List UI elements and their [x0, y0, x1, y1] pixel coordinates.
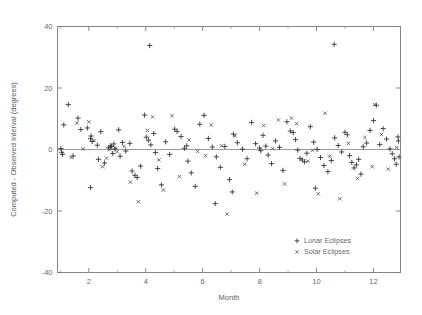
x-axis-title: Month	[219, 293, 240, 302]
y-tick-label: 0	[48, 145, 52, 154]
x-tick-label: 12	[369, 277, 377, 286]
y-tick-label: 40	[44, 22, 52, 31]
x-tick-label: 10	[312, 277, 320, 286]
y-tick-label: -20	[42, 207, 53, 216]
y-tick-label: 20	[44, 84, 52, 93]
legend-label: Lunar Eclipses	[304, 236, 352, 245]
y-tick-label: -40	[42, 268, 53, 277]
legend-label: Solar Eclipses	[304, 247, 350, 256]
x-tick-label: 4	[144, 277, 148, 286]
y-axis-title: Computed - Observed Interval (degrees)	[9, 82, 18, 217]
plot-canvas: 24681012 -40-2002040 Month Computed - Ob…	[0, 0, 422, 315]
x-tick-label: 8	[258, 277, 262, 286]
x-tick-label: 2	[87, 277, 91, 286]
x-tick-label: 6	[201, 277, 205, 286]
scatter-plot-figure: 24681012 -40-2002040 Month Computed - Ob…	[0, 0, 422, 315]
